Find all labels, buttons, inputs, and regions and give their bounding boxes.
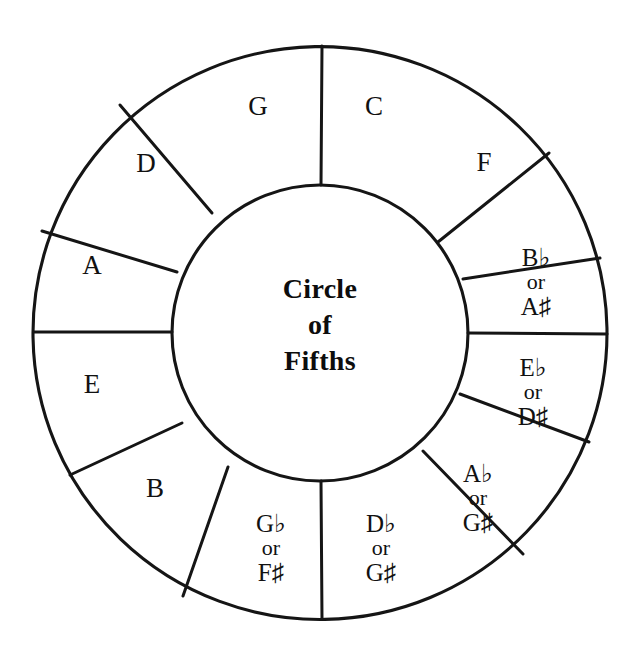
segment-label-f[interactable]: F [476,148,491,176]
segment-d-flat-line3: G♯ [366,559,397,585]
segment-label-b-flat[interactable]: B♭ or A♯ [521,245,552,320]
segment-label-b[interactable]: B [146,474,164,502]
segment-c-line1: C [365,92,383,120]
segment-label-a-flat[interactable]: A♭ or G♯ [463,461,494,536]
segment-d-flat-line2: or [366,537,397,560]
segment-g-flat-line1: G♭ [256,511,286,537]
spoke-a-d [42,231,177,272]
segment-a-line1: A [82,251,102,279]
segment-e-flat-line3: D♯ [518,403,549,429]
segment-label-a[interactable]: A [82,251,102,279]
center-title-line3: Fifths [283,343,357,379]
segment-g-line1: G [248,92,268,120]
spoke-dflat-gflat [321,481,322,619]
segment-b-flat-line1: B♭ [521,245,552,271]
segment-f-line1: F [476,148,491,176]
segment-label-d[interactable]: D [136,149,156,177]
spoke-bflat-eflat [468,333,607,334]
segment-d-flat-line1: D♭ [366,511,397,537]
segment-a-flat-line2: or [463,487,494,510]
segment-label-c[interactable]: C [365,92,383,120]
spoke-c-g [321,46,322,185]
spoke-gflat-b [183,467,228,596]
segment-d-line1: D [136,149,156,177]
segment-label-d-flat[interactable]: D♭ or G♯ [366,511,397,586]
segment-label-g[interactable]: G [248,92,268,120]
segment-e-line1: E [84,370,101,398]
segment-label-e-flat[interactable]: E♭ or D♯ [518,355,549,430]
segment-a-flat-line3: G♯ [463,509,494,535]
segment-e-flat-line2: or [518,381,549,404]
segment-g-flat-line3: F♯ [256,559,286,585]
center-title: Circle of Fifths [283,271,357,378]
segment-a-flat-line1: A♭ [463,461,494,487]
segment-b-line1: B [146,474,164,502]
center-title-line2: of [283,307,357,343]
segment-label-e[interactable]: E [84,370,101,398]
segment-label-g-flat[interactable]: G♭ or F♯ [256,511,286,586]
spoke-c-f [438,153,549,242]
center-title-line1: Circle [283,271,357,307]
circle-of-fifths-diagram: C F B♭ or A♯ E♭ or D♯ A♭ or G♯ D♭ or G♯ … [0,0,633,651]
segment-g-flat-line2: or [256,537,286,560]
spoke-d-g [120,105,212,213]
segment-b-flat-line3: A♯ [521,293,552,319]
spoke-b-e [70,423,182,475]
segment-e-flat-line1: E♭ [518,355,549,381]
segment-b-flat-line2: or [521,271,552,294]
